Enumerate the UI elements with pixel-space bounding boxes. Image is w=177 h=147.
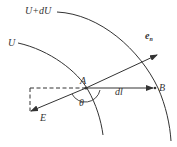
field-diagram: U+dU U A B E dl θ en (0, 0, 177, 147)
label-u: U (8, 37, 16, 48)
label-u-plus-du: U+dU (25, 5, 52, 16)
point-a-dot (85, 87, 88, 90)
label-vector-e: E (39, 112, 46, 123)
label-point-b: B (159, 82, 165, 93)
label-e-n-subscript: n (149, 36, 153, 42)
label-point-a: A (79, 75, 87, 86)
point-b-dot (154, 87, 157, 90)
equipotential-curve-u (18, 43, 103, 135)
label-dl: dl (115, 86, 123, 97)
label-e-n: en (145, 30, 153, 42)
label-theta: θ (79, 97, 84, 108)
vector-e-n (86, 55, 157, 88)
equipotential-curve-u-plus-du (57, 12, 171, 141)
